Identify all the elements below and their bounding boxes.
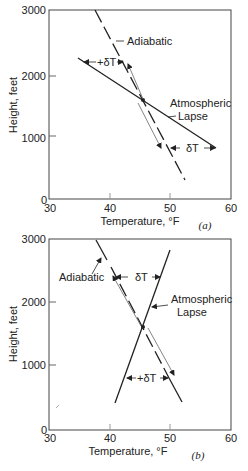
adiabatic-line-bottom <box>169 378 182 402</box>
y-tick-2000: 2000 <box>22 296 46 308</box>
label-adiabatic: Adiabatic <box>127 35 173 47</box>
label-lapse: Lapse <box>177 306 207 318</box>
x-tick-40: 40 <box>104 432 116 444</box>
x-tick-60: 60 <box>225 432 237 444</box>
label-plus-delta-t: +δT <box>137 372 157 384</box>
x-tick-50: 50 <box>164 432 176 444</box>
y-axis-label: Height, feet <box>7 306 19 362</box>
panel-caption: (b) <box>192 449 205 462</box>
label-lapse: Lapse <box>178 110 208 122</box>
x-tick-50: 50 <box>164 202 176 214</box>
y-tick-3000: 3000 <box>22 4 46 16</box>
adiabatic-line-top <box>96 240 107 260</box>
label-adiabatic: Adiabatic <box>59 271 105 283</box>
label-atmospheric: Atmospheric <box>171 293 233 305</box>
figure: 3000 2000 1000 0 Height, feet 30 40 50 6… <box>0 0 248 471</box>
label-delta-t: δT <box>135 271 148 283</box>
x-axis-label: Temperature, °F <box>89 445 168 457</box>
lapse-leader <box>168 116 176 117</box>
y-tick-2000: 2000 <box>22 70 46 82</box>
upward-displacement-arrow <box>128 64 143 99</box>
intersection-point <box>141 325 145 329</box>
lapse-leader <box>152 305 168 307</box>
chart-panel-b: 3000 2000 1000 0 Height, feet 30 40 50 6… <box>7 233 237 462</box>
y-axis-label: Height, feet <box>7 77 19 133</box>
x-tick-30: 30 <box>44 202 56 214</box>
chart-panel-a: 3000 2000 1000 0 Height, feet 30 40 50 6… <box>7 4 237 232</box>
x-tick-60: 60 <box>225 202 237 214</box>
downward-displacement-arrow <box>148 328 174 375</box>
x-axis-label: Temperature, °F <box>101 215 180 227</box>
x-tick-30: 30 <box>44 432 56 444</box>
label-delta-t: δT <box>186 142 199 154</box>
x-tick-40: 40 <box>104 202 116 214</box>
y-tick-3000: 3000 <box>22 233 46 245</box>
y-tick-1000: 1000 <box>22 132 46 144</box>
label-plus-delta-t: +δT <box>97 56 117 68</box>
adiabatic-line <box>111 267 169 378</box>
upward-displacement-arrow <box>113 276 141 326</box>
stray-mark <box>56 405 59 408</box>
panel-caption: (a) <box>199 219 212 232</box>
label-atmospheric: Atmospheric <box>170 97 232 109</box>
y-tick-1000: 1000 <box>22 359 46 371</box>
